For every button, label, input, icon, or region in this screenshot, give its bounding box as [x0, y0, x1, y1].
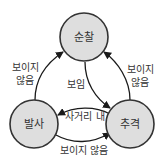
node-patrol: 순찰: [60, 13, 108, 61]
edge-label-fire-to-chase: 보이지 않음: [60, 145, 108, 156]
edge-fire-to-chase: [56, 133, 110, 142]
node-patrol-label: 순찰: [74, 31, 94, 44]
edge-label-chase-to-patrol-line1: 보이지: [127, 64, 154, 75]
edge-label-patrol-to-chase: 보임: [67, 78, 85, 90]
edge-label-fire-to-patrol-line1: 보이지: [12, 62, 39, 73]
edge-label-chase-to-fire: 사거리 내: [65, 111, 104, 122]
edge-label-fire-to-patrol-line2: 않음: [16, 75, 34, 86]
node-fire-label: 발사: [24, 118, 44, 131]
node-fire: 발사: [10, 100, 58, 148]
edge-patrol-to-chase: [85, 62, 110, 108]
state-diagram: 순찰 발사 추격 보이지 않음 보이지 않음 보임 사거리 내 보이지 않음: [0, 0, 168, 164]
edge-label-chase-to-patrol-line2: 않음: [131, 77, 149, 88]
edge-chase-to-patrol: [104, 52, 130, 100]
node-chase-label: 추격: [120, 118, 140, 131]
node-chase: 추격: [106, 100, 154, 148]
edge-fire-to-patrol: [35, 52, 63, 100]
